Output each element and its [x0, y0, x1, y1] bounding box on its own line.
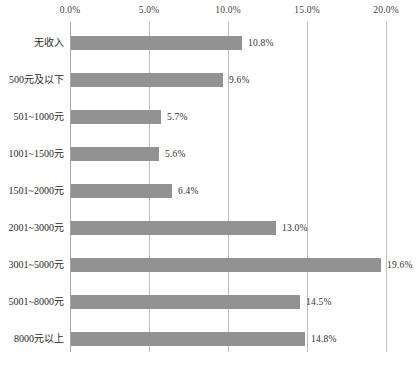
- bar: [71, 36, 242, 50]
- category-label: 500元及以下: [0, 72, 64, 88]
- x-axis-tick-label: 5.0%: [139, 5, 160, 15]
- bar: [71, 110, 161, 124]
- x-axis-tick-label: 10.0%: [215, 5, 241, 15]
- bar: [71, 258, 381, 272]
- bar: [71, 332, 305, 346]
- bar: [71, 184, 172, 198]
- category-label: 2001~3000元: [0, 220, 64, 236]
- value-label: 13.0%: [282, 220, 308, 236]
- bar: [71, 295, 300, 309]
- x-axis-tick-label: 15.0%: [294, 5, 320, 15]
- bar: [71, 221, 276, 235]
- category-label: 1001~1500元: [0, 146, 64, 162]
- value-label: 14.8%: [311, 331, 337, 347]
- bar: [71, 147, 159, 161]
- category-label: 3001~5000元: [0, 257, 64, 273]
- value-label: 9.6%: [229, 72, 250, 88]
- value-label: 10.8%: [248, 35, 274, 51]
- category-label: 8000元以上: [0, 331, 64, 347]
- value-label: 14.5%: [306, 294, 332, 310]
- value-label: 5.7%: [167, 109, 188, 125]
- category-label: 5001~8000元: [0, 294, 64, 310]
- category-label: 501~1000元: [0, 109, 64, 125]
- value-label: 5.6%: [165, 146, 186, 162]
- category-label: 无收入: [0, 35, 64, 51]
- value-label: 19.6%: [387, 257, 413, 273]
- value-label: 6.4%: [178, 183, 199, 199]
- x-axis-tick-label: 0.0%: [60, 5, 81, 15]
- bar: [71, 73, 223, 87]
- x-axis-tick-label: 20.0%: [373, 5, 399, 15]
- income-distribution-bar-chart: 0.0%5.0%10.0%15.0%20.0%无收入10.8%500元及以下9.…: [0, 0, 417, 365]
- gridline-20pct: [386, 22, 387, 352]
- category-label: 1501~2000元: [0, 183, 64, 199]
